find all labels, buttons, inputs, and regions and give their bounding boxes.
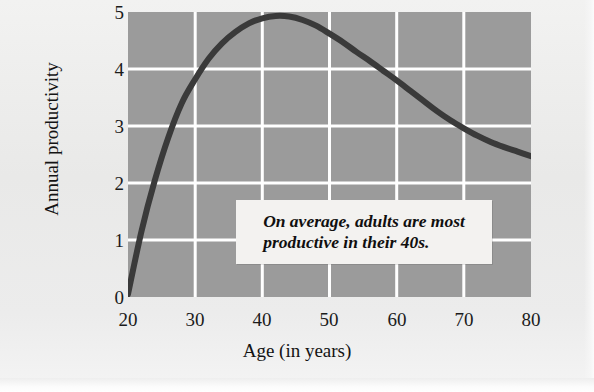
y-tick-1: 1 xyxy=(96,231,124,250)
annotation-line-2: productive in their 40s. xyxy=(263,232,429,252)
annotation-text: On average, adults are most productive i… xyxy=(263,211,465,252)
x-tick-50: 50 xyxy=(309,310,349,329)
x-tick-20: 20 xyxy=(108,310,148,329)
y-axis-title: Annual productivity xyxy=(41,29,63,249)
y-tick-5: 5 xyxy=(96,3,124,22)
annotation-line-1: On average, adults are most xyxy=(263,211,465,231)
y-tick-2: 2 xyxy=(96,174,124,193)
page-right-edge xyxy=(584,0,594,392)
x-tick-40: 40 xyxy=(242,310,282,329)
productivity-chart-figure: 5 4 3 2 1 0 20 30 40 50 60 70 80 Annual … xyxy=(0,0,594,392)
x-tick-30: 30 xyxy=(175,310,215,329)
annotation-callout: On average, adults are most productive i… xyxy=(236,200,492,264)
y-tick-4: 4 xyxy=(96,60,124,79)
x-axis-title: Age (in years) xyxy=(0,340,594,362)
page-bottom-edge xyxy=(0,378,594,392)
x-tick-60: 60 xyxy=(377,310,417,329)
y-tick-3: 3 xyxy=(96,117,124,136)
x-tick-70: 70 xyxy=(444,310,484,329)
x-tick-80: 80 xyxy=(511,310,551,329)
y-tick-0: 0 xyxy=(96,288,124,307)
